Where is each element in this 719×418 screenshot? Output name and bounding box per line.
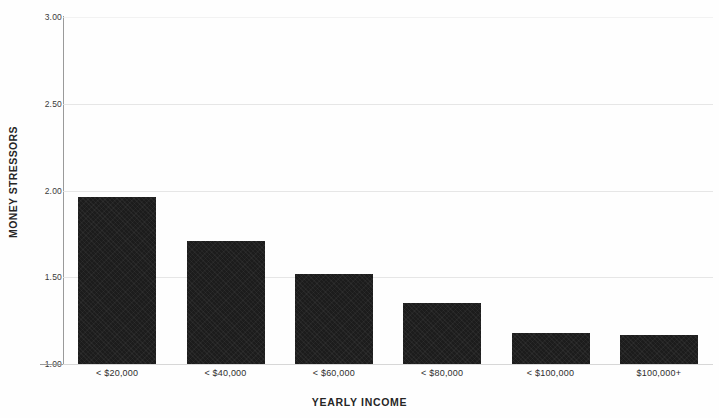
bar: [187, 241, 265, 364]
bar: [620, 335, 698, 364]
bar: [78, 197, 156, 364]
y-axis-tick-label: 2.50: [26, 99, 62, 109]
bar-chart: MONEY STRESSORS 3.002.502.001.501.00 < $…: [0, 0, 719, 418]
x-axis-title: YEARLY INCOME: [0, 396, 719, 408]
y-axis-title-label: MONEY STRESSORS: [7, 126, 19, 238]
x-axis-tick-label: < $40,000: [171, 368, 279, 378]
gridline: [63, 277, 713, 278]
bar: [295, 274, 373, 364]
bar: [403, 303, 481, 364]
x-axis-tick-label: $100,000+: [605, 368, 713, 378]
x-axis-tick-label: < $60,000: [280, 368, 388, 378]
y-axis-tick-label: 3.00: [26, 12, 62, 22]
x-axis-tick-label: < $20,000: [63, 368, 171, 378]
x-axis-tick-labels: < $20,000< $40,000< $60,000< $80,000< $1…: [63, 368, 713, 388]
x-axis-tick-label: < $80,000: [388, 368, 496, 378]
y-axis-tick-label: 1.50: [26, 272, 62, 282]
gridline: [63, 364, 713, 365]
gridline: [63, 191, 713, 192]
y-axis-tick-labels: 3.002.502.001.501.00: [20, 0, 62, 418]
plot-area: [63, 17, 713, 364]
bar: [512, 333, 590, 364]
gridline: [63, 17, 713, 18]
x-axis-tick-label: < $100,000: [496, 368, 604, 378]
y-axis-tick-label: 2.00: [26, 186, 62, 196]
gridline: [63, 104, 713, 105]
